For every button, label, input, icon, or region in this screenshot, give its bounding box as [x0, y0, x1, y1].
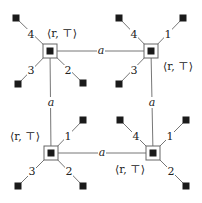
port-label: 4: [28, 28, 35, 41]
leaf-node-square: [116, 15, 123, 22]
node-label: ⟨r, ⊤⟩: [10, 130, 40, 143]
port-label: 3: [28, 64, 35, 77]
leaf-node-square: [15, 183, 22, 190]
graph-diagram: aaaa432⟨r, ⊤⟩413⟨r, ⊤⟩132⟨r, ⊤⟩412⟨r, ⊤⟩: [0, 0, 202, 203]
leaf-node-square: [15, 81, 22, 88]
port-label: 1: [65, 130, 72, 143]
node-label: ⟨r, ⊤⟩: [163, 60, 193, 73]
leaf-node-square: [80, 117, 87, 124]
leaf-node-square: [183, 183, 190, 190]
node-label: ⟨r, ⊤⟩: [115, 163, 145, 176]
central-node-core: [150, 150, 157, 157]
port-label: 4: [131, 28, 138, 41]
edge-label: a: [99, 146, 106, 159]
leaf-node-square: [80, 183, 87, 190]
central-node-core: [48, 150, 55, 157]
port-label: 1: [167, 130, 174, 143]
labels-layer: aaaa432⟨r, ⊤⟩413⟨r, ⊤⟩132⟨r, ⊤⟩412⟨r, ⊤⟩: [10, 27, 193, 178]
port-label: 3: [131, 64, 138, 77]
leaf-node-square: [80, 80, 87, 87]
edge-label: a: [149, 96, 156, 109]
port-label: 1: [165, 28, 172, 41]
edge-label: a: [48, 96, 55, 109]
node-label: ⟨r, ⊤⟩: [47, 27, 77, 40]
leaf-node-square: [13, 15, 20, 22]
port-label: 2: [65, 64, 72, 77]
port-label: 2: [66, 165, 73, 178]
leaf-node-square: [116, 81, 123, 88]
leaf-node-square: [117, 117, 124, 124]
port-label: 3: [29, 165, 36, 178]
edge-label: a: [98, 44, 105, 57]
port-label: 2: [168, 165, 175, 178]
central-node-core: [47, 48, 54, 55]
port-label: 4: [133, 130, 140, 143]
leaf-node-square: [180, 15, 187, 22]
central-node-core: [148, 48, 155, 55]
leaf-node-square: [183, 117, 190, 124]
